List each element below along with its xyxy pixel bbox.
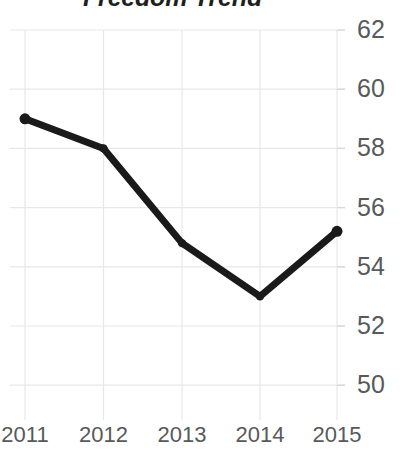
x-axis-tick-label: 2013	[158, 424, 207, 446]
x-axis-tick-label: 2012	[79, 424, 128, 446]
data-point-2012	[99, 144, 107, 152]
y-axis-tick-label: 50	[357, 372, 385, 397]
data-point-markers	[20, 113, 343, 300]
y-axis-tick-label: 56	[357, 195, 385, 220]
y-axis-tick-label: 52	[357, 313, 385, 338]
plot-area	[0, 0, 403, 420]
y-axis-ticks	[337, 30, 345, 385]
x-axis-tick-label: 2014	[236, 424, 285, 446]
vertical-gridlines	[25, 30, 337, 420]
y-axis-tick-label: 62	[357, 17, 385, 42]
line-chart-svg	[0, 0, 403, 420]
y-axis-tick-label: 60	[357, 76, 385, 101]
x-axis-tick-label: 2011	[1, 424, 48, 446]
data-point-2015	[332, 226, 343, 237]
chart-container: Freedom Trend 62605856545250 20112012201…	[0, 0, 403, 453]
data-point-2011	[20, 113, 31, 124]
horizontal-gridlines	[10, 30, 345, 385]
data-point-2014	[256, 292, 264, 300]
y-axis-tick-label: 58	[357, 135, 385, 160]
x-axis-tick-label: 2015	[313, 424, 362, 446]
data-point-2013	[178, 239, 186, 247]
y-axis-tick-label: 54	[357, 254, 385, 279]
